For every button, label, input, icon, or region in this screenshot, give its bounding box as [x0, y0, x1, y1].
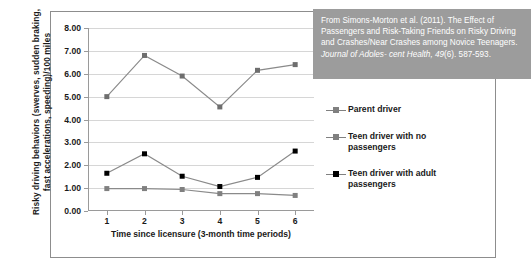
x-tick-mark — [295, 211, 296, 215]
series-marker — [142, 53, 147, 58]
citation-line-1: From Simons-Morton et al. (2011). The Ef… — [321, 16, 485, 25]
x-tick-mark — [258, 211, 259, 215]
y-axis-title: Risky driving behaviors (swerves, sudden… — [26, 0, 58, 228]
y-tick-label: 6.00 — [64, 69, 81, 79]
y-tick-label: 0.00 — [64, 206, 81, 216]
x-tick-label: 2 — [142, 216, 147, 226]
x-tick-mark — [145, 211, 146, 215]
citation-line-4-plain: among Novice Teenagers. — [423, 38, 518, 47]
legend-label: Teen driver with adult passengers — [346, 168, 476, 189]
legend-label: Parent driver — [346, 104, 401, 115]
series-line — [107, 55, 295, 106]
series-marker — [293, 62, 298, 67]
legend-label: Teen driver with no passengers — [346, 131, 476, 152]
series-marker — [217, 184, 222, 189]
x-axis-title: Time since licensure (3-month time perio… — [111, 229, 291, 239]
y-axis-title-line-1: Risky driving behaviors (swerves, sudden… — [31, 9, 43, 215]
x-tick-mark — [220, 211, 221, 215]
y-tick-label: 1.00 — [64, 183, 81, 193]
citation-line-5-journal: cent Health, 49 — [389, 50, 444, 59]
y-tick-label: 4.00 — [64, 115, 81, 125]
chart-legend: Parent driverTeen driver with no passeng… — [326, 104, 476, 205]
series-marker — [255, 175, 260, 180]
series-marker — [293, 193, 298, 198]
legend-marker-icon — [326, 105, 346, 115]
series-marker — [180, 187, 185, 192]
y-tick-label: 8.00 — [64, 23, 81, 33]
series-marker — [142, 151, 147, 156]
series-plot — [88, 28, 314, 211]
series-marker — [217, 104, 222, 109]
series-marker — [180, 174, 185, 179]
series-line — [107, 151, 295, 186]
series-line — [107, 189, 295, 196]
plot-inner: 0.001.002.003.004.005.006.007.008.00 123… — [88, 28, 314, 211]
series-marker — [104, 171, 109, 176]
citation-note: From Simons-Morton et al. (2011). The Ef… — [313, 9, 531, 79]
citation-line-4-journal: Journal of Adoles- — [321, 50, 387, 59]
plot-area: 0.001.002.003.004.005.006.007.008.00 123… — [88, 28, 314, 211]
x-tick-label: 1 — [104, 216, 109, 226]
figure-container: Risky driving behaviors (swerves, sudden… — [0, 0, 531, 271]
series-marker — [217, 191, 222, 196]
y-tick-mark — [84, 211, 88, 212]
x-tick-label: 4 — [217, 216, 222, 226]
x-tick-label: 5 — [255, 216, 260, 226]
y-tick-label: 5.00 — [64, 92, 81, 102]
citation-line-5-plain: (6). 587-593. — [444, 50, 491, 59]
series-marker — [255, 68, 260, 73]
y-tick-label: 2.00 — [64, 160, 81, 170]
series-marker — [142, 186, 147, 191]
series-marker — [293, 149, 298, 154]
x-tick-label: 3 — [180, 216, 185, 226]
x-tick-label: 6 — [293, 216, 298, 226]
y-tick-label: 3.00 — [64, 137, 81, 147]
y-tick-label: 7.00 — [64, 46, 81, 56]
series-marker — [104, 186, 109, 191]
legend-entry[interactable]: Teen driver with adult passengers — [326, 168, 476, 189]
legend-entry[interactable]: Teen driver with no passengers — [326, 131, 476, 152]
y-axis-title-line-2: fast accelerations, speeding)/100 miles — [42, 33, 54, 191]
x-tick-mark — [107, 211, 108, 215]
series-marker — [104, 94, 109, 99]
legend-marker-icon — [326, 132, 346, 142]
series-marker — [255, 191, 260, 196]
x-tick-mark — [182, 211, 183, 215]
series-marker — [180, 74, 185, 79]
legend-entry[interactable]: Parent driver — [326, 104, 476, 115]
legend-marker-icon — [326, 169, 346, 179]
